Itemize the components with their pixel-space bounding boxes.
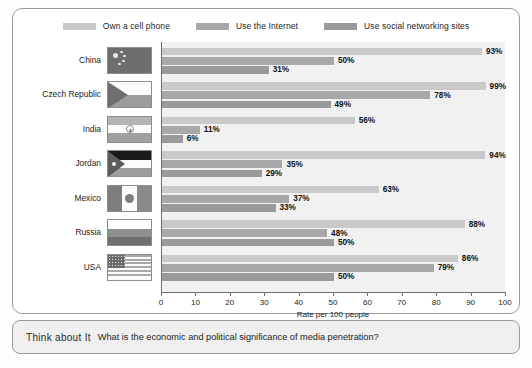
bar-value-label: 88%	[469, 220, 485, 229]
bar-line: 88%	[162, 220, 506, 228]
chart-row-mx: Mexico63%37%33%	[13, 181, 521, 216]
x-axis-tick-label: 40	[294, 298, 303, 307]
bar-line: 99%	[162, 82, 506, 90]
flag-band-bottom	[108, 237, 151, 245]
x-axis-tick-label: 100	[498, 298, 511, 307]
flag-triangle	[108, 151, 125, 177]
bar-value-label: 48%	[331, 229, 347, 238]
country-label: Czech Republic	[13, 90, 107, 99]
legend-item-use-internet: Use the Internet	[196, 21, 298, 31]
bar-own-a-cell-phone	[162, 117, 355, 125]
bar-own-a-cell-phone	[162, 186, 379, 194]
bar-value-label: 94%	[489, 151, 505, 160]
bar-line: 94%	[162, 151, 506, 159]
flag-icon-us	[107, 254, 152, 281]
flag-canton	[108, 255, 125, 269]
bar-own-a-cell-phone	[162, 255, 458, 263]
think-about-it-title: Think about It	[26, 332, 91, 343]
bar-line: 33%	[162, 204, 506, 212]
legend-item-use-social: Use social networking sites	[324, 21, 469, 31]
bar-line: 31%	[162, 66, 506, 74]
bar-group: 94%35%29%	[162, 147, 506, 182]
bar-group: 56%11%6%	[162, 112, 506, 147]
flag-icon-jo	[107, 150, 152, 177]
bar-line: 63%	[162, 186, 506, 194]
x-axis-tick	[471, 292, 472, 296]
bar-use-the-internet	[162, 91, 430, 99]
bar-group: 88%48%50%	[162, 216, 506, 251]
flag-stars	[108, 255, 125, 269]
flag-star	[123, 55, 126, 58]
x-axis-tick	[230, 292, 231, 296]
country-label: India	[13, 125, 107, 134]
flag-star	[112, 162, 116, 166]
x-axis-tick	[367, 292, 368, 296]
bar-value-label: 29%	[266, 169, 282, 178]
flag-chakra	[126, 125, 134, 133]
bar-value-label: 50%	[338, 272, 354, 281]
chart-rows: China93%50%31%Czech Republic99%78%49%Ind…	[13, 42, 521, 292]
flag-emblem	[125, 194, 134, 203]
legend-item-own-cell-phone: Own a cell phone	[63, 21, 170, 31]
bar-use-the-internet	[162, 160, 282, 168]
flag-stripe	[108, 270, 151, 272]
x-axis-tick	[402, 292, 403, 296]
flag-triangle	[108, 82, 128, 108]
bar-value-label: 99%	[490, 82, 506, 91]
flag-stripe-left	[108, 186, 122, 211]
chart-row-jo: Jordan94%35%29%	[13, 147, 521, 182]
bar-value-label: 93%	[486, 47, 502, 56]
chart-row-in: India56%11%6%	[13, 112, 521, 147]
x-axis-tick-label: 10	[191, 298, 200, 307]
bar-value-label: 63%	[383, 185, 399, 194]
bar-line: 78%	[162, 91, 506, 99]
bar-value-label: 56%	[359, 116, 375, 125]
flag-icon-cn	[107, 47, 152, 74]
bar-use-the-internet	[162, 264, 434, 272]
flag-star	[120, 51, 123, 54]
bar-own-a-cell-phone	[162, 82, 486, 90]
bar-use-social-networking-sites	[162, 135, 183, 143]
bar-value-label: 35%	[286, 160, 302, 169]
x-axis-tick-label: 50	[329, 298, 338, 307]
chart-row-us: USA86%79%50%	[13, 250, 521, 285]
x-axis-tick	[505, 292, 506, 296]
bar-value-label: 79%	[438, 263, 454, 272]
flag-field	[108, 48, 151, 73]
legend-label-own-cell-phone: Own a cell phone	[103, 21, 170, 31]
x-axis-tick	[264, 292, 265, 296]
x-axis-tick-label: 80	[432, 298, 441, 307]
bar-value-label: 50%	[338, 56, 354, 65]
flag-icon-in	[107, 116, 152, 143]
bar-value-label: 11%	[204, 125, 220, 134]
plot-area: China93%50%31%Czech Republic99%78%49%Ind…	[13, 42, 521, 314]
bar-use-social-networking-sites	[162, 101, 331, 109]
flag-band-top	[108, 220, 151, 228]
bar-own-a-cell-phone	[162, 220, 465, 228]
legend-label-use-social: Use social networking sites	[364, 21, 469, 31]
bar-value-label: 33%	[280, 203, 296, 212]
chart-row-ru: Russia88%48%50%	[13, 216, 521, 251]
flag-stripe-right	[137, 186, 151, 211]
flag-icon-cz	[107, 81, 152, 108]
think-about-it-banner: Think about It What is the economic and …	[12, 320, 520, 354]
bar-value-label: 49%	[335, 100, 351, 109]
think-about-it-question: What is the economic and political signi…	[98, 332, 379, 342]
bar-line: 50%	[162, 273, 506, 281]
x-axis-title: Rate per 100 people	[161, 310, 505, 319]
bar-use-social-networking-sites	[162, 239, 334, 247]
bar-use-social-networking-sites	[162, 204, 276, 212]
bar-line: 6%	[162, 135, 506, 143]
legend-swatch-use-social	[324, 23, 357, 30]
x-axis-tick	[195, 292, 196, 296]
country-label: Russia	[13, 228, 107, 237]
bar-line: 50%	[162, 57, 506, 65]
figure-frame: Own a cell phone Use the Internet Use so…	[12, 8, 520, 314]
flag-star	[118, 63, 121, 66]
flag-icon-ru	[107, 219, 152, 246]
country-label: Mexico	[13, 194, 107, 203]
bar-use-the-internet	[162, 126, 200, 134]
bar-line: 79%	[162, 264, 506, 272]
bar-own-a-cell-phone	[162, 48, 482, 56]
x-axis-tick-label: 30	[260, 298, 269, 307]
